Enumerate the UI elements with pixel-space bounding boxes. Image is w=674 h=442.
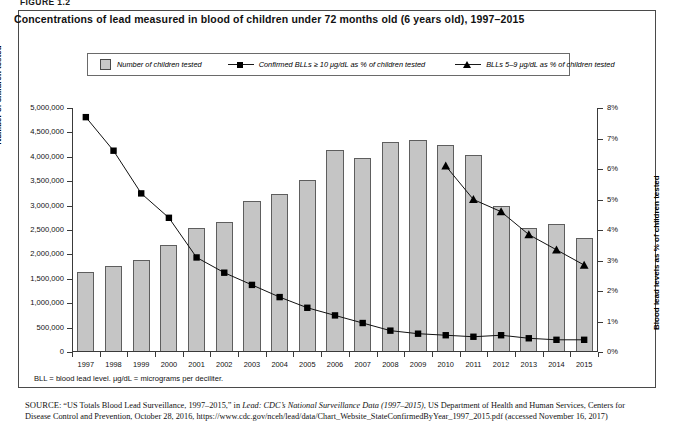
x-tick-label-2006: 2006 xyxy=(320,360,350,369)
plot-area: 0500,0001,000,0001,500,0002,000,0002,500… xyxy=(72,108,598,352)
x-tick xyxy=(72,352,73,357)
bar-2011 xyxy=(465,155,482,352)
x-tick xyxy=(155,352,156,357)
y-tick xyxy=(67,303,72,304)
y-tick xyxy=(67,279,72,280)
bar-2010 xyxy=(437,145,454,352)
x-tick-label-2001: 2001 xyxy=(182,360,212,369)
legend-item-bars: Number of children tested xyxy=(100,59,202,70)
y-tick xyxy=(67,132,72,133)
y-tick-label: 1,500,000 xyxy=(8,274,64,283)
black-square-line-icon xyxy=(228,60,254,69)
x-tick-label-2013: 2013 xyxy=(514,360,544,369)
source-text-1: “US Totals Blood Lead Surveillance, 1997… xyxy=(61,401,242,410)
y-axis-title: Number of children tested xyxy=(0,25,3,165)
y2-tick xyxy=(598,322,603,323)
y-tick xyxy=(67,157,72,158)
x-tick xyxy=(460,352,461,357)
y2-tick xyxy=(598,261,603,262)
x-tick xyxy=(598,352,599,357)
x-tick xyxy=(349,352,350,357)
y2-tick-label: 0% xyxy=(607,347,618,356)
bar-2003 xyxy=(243,201,260,352)
x-tick-label-2007: 2007 xyxy=(348,360,378,369)
bar-2015 xyxy=(576,238,593,352)
y-tick xyxy=(67,328,72,329)
y2-tick xyxy=(598,139,603,140)
x-tick xyxy=(543,352,544,357)
chart-legend: Number of children tested Confirmed BLLs… xyxy=(87,53,570,76)
y2-tick-label: 2% xyxy=(607,286,618,295)
x-tick xyxy=(404,352,405,357)
bar-2005 xyxy=(299,180,316,352)
x-tick-label-2008: 2008 xyxy=(375,360,405,369)
bar-2013 xyxy=(520,228,537,352)
source-italic: Lead: CDC’s National Surveillance Data (… xyxy=(242,401,424,410)
chart-notes: BLL = blood lead level. μg/dL = microgra… xyxy=(34,374,223,383)
legend-item-confirmed-bll: Confirmed BLLs ≥ 10 μg/dL as % of childr… xyxy=(228,60,426,69)
bar-2006 xyxy=(326,150,343,352)
bar-2001 xyxy=(188,228,205,352)
x-tick xyxy=(515,352,516,357)
bar-1998 xyxy=(105,266,122,352)
x-tick xyxy=(432,352,433,357)
x-tick xyxy=(570,352,571,357)
y2-tick-label: 4% xyxy=(607,225,618,234)
y2-tick xyxy=(598,230,603,231)
x-tick xyxy=(210,352,211,357)
y-tick-label: 4,000,000 xyxy=(8,152,64,161)
source-label: SOURCE: xyxy=(25,400,61,410)
x-tick-label-2010: 2010 xyxy=(431,360,461,369)
y-tick xyxy=(67,206,72,207)
legend-label-1: Confirmed BLLs ≥ 10 μg/dL as % of childr… xyxy=(259,60,426,69)
legend-label-2: BLLs 5–9 μg/dL as % of children tested xyxy=(486,60,614,69)
figure-label: FIGURE 1.2 xyxy=(20,0,70,7)
y2-tick-label: 7% xyxy=(607,134,618,143)
x-tick-label-1999: 1999 xyxy=(126,360,156,369)
bar-2009 xyxy=(409,140,426,352)
bar-2007 xyxy=(354,158,371,352)
y2-tick xyxy=(598,169,603,170)
x-tick-label-2012: 2012 xyxy=(486,360,516,369)
x-tick-label-2002: 2002 xyxy=(209,360,239,369)
x-tick xyxy=(266,352,267,357)
bar-2004 xyxy=(271,194,288,352)
x-tick-label-2000: 2000 xyxy=(154,360,184,369)
x-tick xyxy=(238,352,239,357)
bar-2002 xyxy=(216,222,233,352)
x-tick xyxy=(183,352,184,357)
x-tick-label-2004: 2004 xyxy=(265,360,295,369)
black-triangle-line-icon xyxy=(455,60,481,69)
x-tick xyxy=(487,352,488,357)
y-tick xyxy=(67,108,72,109)
x-tick-label-2003: 2003 xyxy=(237,360,267,369)
grey-square-swatch-icon xyxy=(100,59,111,70)
y-tick-label: 2,500,000 xyxy=(8,225,64,234)
x-tick-label-1997: 1997 xyxy=(71,360,101,369)
x-tick-label-2014: 2014 xyxy=(541,360,571,369)
y2-tick xyxy=(598,108,603,109)
y2-axis-title: Blood lead levels as % of children teste… xyxy=(652,130,661,330)
x-tick xyxy=(127,352,128,357)
x-tick xyxy=(293,352,294,357)
x-tick-label-2011: 2011 xyxy=(458,360,488,369)
y-tick-label: 3,000,000 xyxy=(8,201,64,210)
y-tick-label: 0 xyxy=(8,347,64,356)
bar-2000 xyxy=(160,245,177,352)
bar-1999 xyxy=(133,260,150,352)
y-tick-label: 5,000,000 xyxy=(8,103,64,112)
bar-2008 xyxy=(382,142,399,352)
x-tick-label-1998: 1998 xyxy=(99,360,129,369)
y2-tick xyxy=(598,291,603,292)
y-tick-label: 3,500,000 xyxy=(8,176,64,185)
y-tick-label: 1,000,000 xyxy=(8,298,64,307)
y2-tick-label: 5% xyxy=(607,195,618,204)
legend-label-0: Number of children tested xyxy=(117,60,202,69)
x-tick xyxy=(321,352,322,357)
chart-title: Concentrations of lead measured in blood… xyxy=(14,13,614,25)
x-tick xyxy=(377,352,378,357)
y2-tick xyxy=(598,200,603,201)
y-tick xyxy=(67,230,72,231)
y2-tick-label: 3% xyxy=(607,256,618,265)
bar-1997 xyxy=(77,272,94,352)
